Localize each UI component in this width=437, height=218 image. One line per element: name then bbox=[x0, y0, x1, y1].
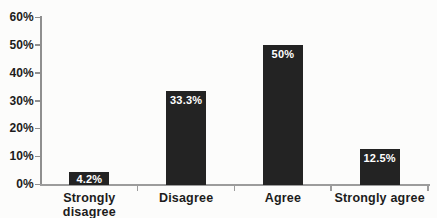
bar-value-label: 50% bbox=[263, 48, 303, 60]
bar-chart: 0%10%20%30%40%50%60% 4.2%33.3%50%12.5% S… bbox=[0, 0, 437, 218]
bar-agree bbox=[263, 45, 303, 185]
y-tick-label: 20% bbox=[0, 121, 34, 135]
y-tick-label: 60% bbox=[0, 10, 34, 24]
y-tick-mark bbox=[35, 100, 40, 102]
y-tick-label: 50% bbox=[0, 38, 34, 52]
y-tick-mark bbox=[35, 128, 40, 130]
bar-value-label: 33.3% bbox=[166, 94, 206, 106]
category-label: Strongly disagree bbox=[41, 191, 138, 218]
y-tick-label: 30% bbox=[0, 94, 34, 108]
category-label: Disagree bbox=[138, 191, 235, 205]
bar-value-label: 12.5% bbox=[360, 152, 400, 164]
y-tick-mark bbox=[35, 156, 40, 158]
y-tick-mark bbox=[35, 72, 40, 74]
y-tick-mark bbox=[35, 184, 40, 186]
y-tick-label: 40% bbox=[0, 66, 34, 80]
bar-value-label: 4.2% bbox=[69, 173, 109, 185]
y-tick-label: 0% bbox=[0, 177, 34, 191]
category-label: Strongly agree bbox=[331, 191, 428, 205]
y-tick-label: 10% bbox=[0, 149, 34, 163]
category-label: Agree bbox=[235, 191, 332, 205]
y-axis-line bbox=[40, 16, 42, 185]
y-tick-mark bbox=[35, 44, 40, 46]
y-tick-mark bbox=[35, 17, 40, 19]
